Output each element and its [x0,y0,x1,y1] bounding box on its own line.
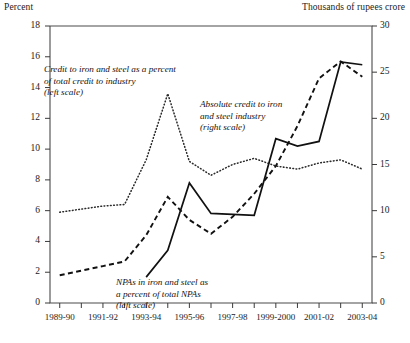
annotation-credit-line-2: of total credit to industry [44,76,176,88]
annotation-absolute-line-3: (right scale) [200,122,282,134]
left-tick-label: 2 [18,266,40,276]
annotation-credit-line-1: Credit to iron and steel as a percent [44,64,176,76]
x-tick-label: 2003-04 [332,312,392,322]
right-tick-label: 0 [380,297,404,307]
annotation-npa-line-2: a percent of total NPAs [116,289,208,301]
left-tick-label: 14 [18,82,40,92]
right-tick-marks [372,26,377,303]
annotation-npa-line-1: NPAs in iron and steel as [116,277,208,289]
annotation-absolute-line-2: and steel industry [200,111,282,123]
right-axis-title: Thousands of rupees crore [302,2,405,12]
annotation-credit-percent: Credit to iron and steel as a percent of… [44,64,176,99]
annotation-npa-line-3: (left scale) [116,300,208,312]
left-tick-label: 10 [18,143,40,153]
series-absolute-credit-solid [146,62,362,277]
left-tick-label: 4 [18,235,40,245]
chart-figure: Percent Thousands of rupees crore 024681… [0,0,410,343]
right-tick-label: 10 [380,205,404,215]
x-tick-marks [60,303,363,308]
left-tick-label: 8 [18,174,40,184]
left-tick-label: 6 [18,205,40,215]
right-tick-label: 25 [380,66,404,76]
annotation-npa-percent: NPAs in iron and steel as a percent of t… [116,277,208,312]
right-tick-label: 5 [380,251,404,261]
annotation-absolute-line-1: Absolute credit to iron [200,99,282,111]
right-tick-label: 15 [380,159,404,169]
right-tick-label: 30 [380,20,404,30]
left-tick-label: 16 [18,51,40,61]
left-tick-label: 12 [18,112,40,122]
left-tick-label: 18 [18,20,40,30]
annotation-absolute-credit: Absolute credit to iron and steel indust… [200,99,282,134]
left-axis-title: Percent [4,2,33,12]
annotation-credit-line-3: (left scale) [44,87,176,99]
right-tick-label: 20 [380,112,404,122]
left-tick-label: 0 [18,297,40,307]
